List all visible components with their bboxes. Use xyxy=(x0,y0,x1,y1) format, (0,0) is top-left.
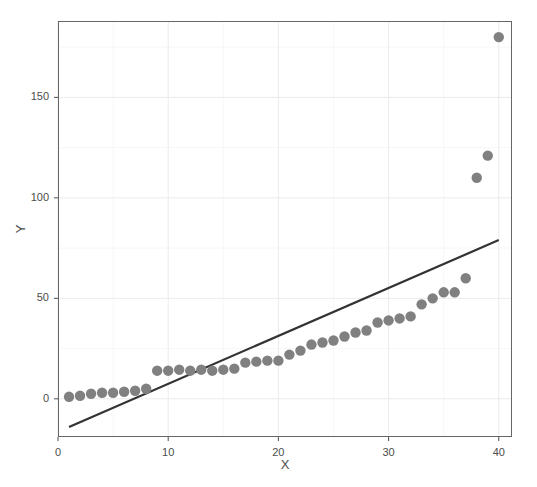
data-point xyxy=(119,387,129,397)
data-point xyxy=(141,384,151,394)
data-point xyxy=(361,325,371,335)
data-point xyxy=(273,355,283,365)
y-axis-title: Y xyxy=(13,224,28,233)
data-point xyxy=(196,364,206,374)
x-axis-title: X xyxy=(281,457,290,472)
y-tick-label: 0 xyxy=(43,392,49,404)
data-point xyxy=(97,388,107,398)
data-point xyxy=(262,355,272,365)
data-point xyxy=(317,337,327,347)
x-tick-label: 30 xyxy=(382,446,394,458)
data-point xyxy=(64,392,74,402)
data-point xyxy=(108,388,118,398)
data-point xyxy=(295,345,305,355)
data-point xyxy=(438,287,448,297)
data-point xyxy=(416,299,426,309)
data-point xyxy=(328,335,338,345)
data-point xyxy=(427,293,437,303)
data-point xyxy=(449,287,459,297)
data-point xyxy=(240,357,250,367)
y-tick-label: 100 xyxy=(31,191,49,203)
data-point xyxy=(394,313,404,323)
data-point xyxy=(86,389,96,399)
scatter-plot-figure: 010203040 050100150 X Y xyxy=(0,0,537,487)
plot-canvas: 010203040 050100150 X Y xyxy=(0,0,537,487)
data-point xyxy=(174,364,184,374)
data-point xyxy=(251,356,261,366)
y-axis-ticks: 050100150 xyxy=(31,90,58,403)
data-point xyxy=(75,391,85,401)
data-point xyxy=(163,365,173,375)
data-point xyxy=(483,150,493,160)
data-point xyxy=(284,349,294,359)
y-tick-label: 150 xyxy=(31,90,49,102)
x-tick-label: 40 xyxy=(493,446,505,458)
data-point xyxy=(494,32,504,42)
data-point xyxy=(461,273,471,283)
x-tick-label: 20 xyxy=(272,446,284,458)
data-point xyxy=(306,339,316,349)
data-point xyxy=(152,365,162,375)
data-point xyxy=(339,331,349,341)
data-point xyxy=(130,386,140,396)
data-point xyxy=(185,365,195,375)
x-axis-ticks: 010203040 xyxy=(55,437,505,458)
data-point xyxy=(472,173,482,183)
x-tick-label: 10 xyxy=(162,446,174,458)
data-point xyxy=(372,317,382,327)
data-point xyxy=(207,365,217,375)
y-tick-label: 50 xyxy=(37,291,49,303)
data-point xyxy=(218,364,228,374)
data-point xyxy=(350,327,360,337)
data-point xyxy=(383,315,393,325)
data-point xyxy=(405,311,415,321)
data-point xyxy=(229,363,239,373)
x-tick-label: 0 xyxy=(55,446,61,458)
